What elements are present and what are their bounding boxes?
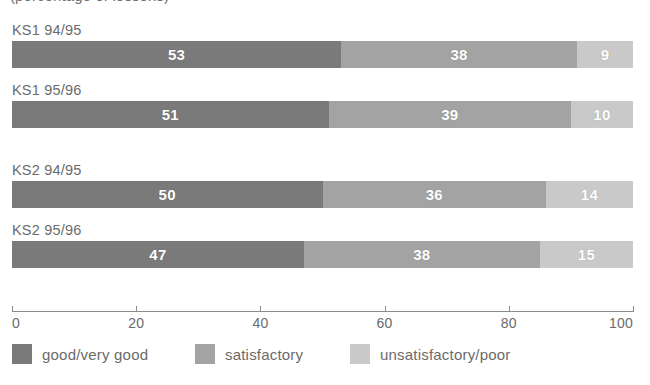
bar-segment-value: 47 [149,247,166,262]
legend-label: unsatisfactory/poor [380,346,511,363]
bar-segment[interactable]: 15 [540,241,633,268]
x-axis-line [12,311,633,312]
bar-segment[interactable]: 38 [304,241,540,268]
stacked-bar: 513910 [12,101,633,128]
x-axis-tick-label: 80 [501,315,517,331]
legend-label: satisfactory [225,346,303,363]
x-axis-tick [509,306,510,312]
x-axis-tick-label: 100 [609,315,633,331]
x-axis-tick [385,306,386,312]
legend-item[interactable]: unsatisfactory/poor [350,344,511,364]
bar-segment-value: 15 [578,247,595,262]
x-axis-tick-label: 0 [12,315,20,331]
x-axis-tick-label: 60 [377,315,393,331]
bar-segment-value: 14 [581,187,598,202]
bar-segment-value: 38 [413,247,430,262]
chart-legend: good/very goodsatisfactoryunsatisfactory… [0,344,650,374]
bar-segment[interactable]: 14 [546,181,633,208]
bar-segment[interactable]: 39 [329,101,571,128]
x-axis: 020406080100 [0,303,650,337]
bar-segment[interactable]: 9 [577,41,633,68]
legend-swatch-icon [12,344,32,364]
bar-category-label: KS2 94/95 [12,162,82,178]
bar-category-label: KS1 94/95 [12,22,82,38]
legend-swatch-icon [350,344,370,364]
bar-segment-value: 9 [601,47,610,62]
bar-segment-value: 10 [593,107,610,122]
legend-item[interactable]: satisfactory [195,344,303,364]
stacked-bar: 53389 [12,41,633,68]
stacked-bar: 503614 [12,181,633,208]
bar-segment-value: 36 [426,187,443,202]
x-axis-tick [12,306,13,312]
x-axis-tick-label: 20 [128,315,144,331]
bar-segment-value: 51 [162,107,179,122]
x-axis-tick [633,306,634,312]
bar-segment-value: 38 [450,47,467,62]
legend-swatch-icon [195,344,215,364]
stacked-bar: 473815 [12,241,633,268]
chart-plot-area: KS1 94/9553389KS1 95/96513910KS2 94/9550… [0,0,650,300]
bar-segment[interactable]: 53 [12,41,341,68]
bar-segment[interactable]: 47 [12,241,304,268]
bar-category-label: KS1 95/96 [12,82,82,98]
legend-item[interactable]: good/very good [12,344,148,364]
bar-segment[interactable]: 10 [571,101,633,128]
legend-label: good/very good [42,346,148,363]
x-axis-tick [136,306,137,312]
bar-segment[interactable]: 38 [341,41,577,68]
x-axis-tick [260,306,261,312]
bar-segment-value: 39 [441,107,458,122]
bar-segment-value: 50 [159,187,176,202]
bar-segment[interactable]: 36 [323,181,547,208]
x-axis-tick-label: 40 [252,315,268,331]
bar-segment[interactable]: 50 [12,181,323,208]
bar-segment-value: 53 [168,47,185,62]
bar-category-label: KS2 95/96 [12,222,82,238]
bar-segment[interactable]: 51 [12,101,329,128]
